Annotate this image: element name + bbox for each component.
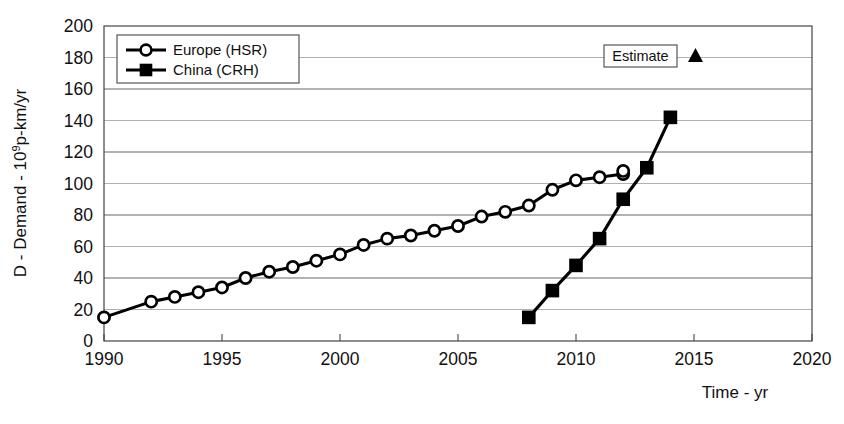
y-tick-label: 80 — [74, 205, 94, 225]
data-point-marker — [169, 291, 180, 302]
data-point-marker — [594, 233, 606, 245]
chart-container: 1990199520002005201020152020 02040608010… — [0, 0, 844, 424]
data-point-marker — [547, 184, 558, 195]
data-point-marker — [523, 311, 535, 323]
open-circle-marker-icon — [141, 45, 152, 56]
data-point-marker — [429, 225, 440, 236]
data-point-marker — [641, 162, 653, 174]
data-point-marker — [618, 165, 629, 176]
data-point-marker — [594, 172, 605, 183]
x-tick-label: 2020 — [793, 349, 832, 369]
y-tick-label: 180 — [64, 48, 93, 68]
y-tick-label: 120 — [64, 142, 93, 162]
data-point-marker — [476, 211, 487, 222]
x-tick-label: 2010 — [557, 349, 596, 369]
y-tick-label: 40 — [74, 268, 94, 288]
x-axis-title: Time - yr — [702, 383, 769, 402]
y-axis-title-prefix: D - Demand - 10 — [11, 152, 30, 278]
data-point-marker — [216, 282, 227, 293]
data-point-marker — [146, 296, 157, 307]
y-axis-title-suffix: p-km/yr — [11, 88, 30, 145]
y-tick-label: 60 — [74, 237, 94, 257]
data-point-marker — [617, 193, 629, 205]
legend: Europe (HSR) China (CRH) — [117, 35, 299, 83]
legend-label-china: China (CRH) — [173, 61, 259, 78]
y-axis-title: D - Demand - 109p-km/yr — [10, 88, 30, 277]
data-point-marker — [500, 206, 511, 217]
data-point-marker — [570, 259, 582, 271]
data-point-marker — [382, 233, 393, 244]
legend-item-europe[interactable]: Europe (HSR) — [126, 41, 267, 58]
y-tick-label: 20 — [74, 300, 94, 320]
data-point-marker — [523, 200, 534, 211]
demand-vs-time-line-chart: 1990199520002005201020152020 02040608010… — [0, 0, 844, 424]
svg-text:D - Demand - 109p-km/yr: D - Demand - 109p-km/yr — [10, 88, 30, 277]
data-point-marker — [405, 230, 416, 241]
x-tick-label: 1990 — [85, 349, 124, 369]
y-tick-label: 200 — [64, 16, 93, 36]
data-point-marker — [570, 175, 581, 186]
data-point-marker — [240, 272, 251, 283]
filled-square-marker-icon — [141, 65, 152, 76]
legend-label-europe: Europe (HSR) — [173, 41, 267, 58]
data-point-marker — [264, 266, 275, 277]
x-tick-label: 2015 — [675, 349, 714, 369]
data-point-marker — [334, 249, 345, 260]
estimate-label-text: Estimate — [612, 48, 668, 64]
y-axis-tick-labels: 020406080100120140160180200 — [64, 16, 93, 351]
data-point-marker — [664, 111, 676, 123]
y-tick-label: 140 — [64, 111, 93, 131]
x-tick-label: 2005 — [439, 349, 478, 369]
y-tick-label: 100 — [64, 174, 93, 194]
data-point-marker — [452, 220, 463, 231]
y-tick-label: 160 — [64, 79, 93, 99]
data-point-marker — [546, 285, 558, 297]
x-axis-tick-labels: 1990199520002005201020152020 — [85, 349, 832, 369]
data-point-marker — [358, 239, 369, 250]
x-tick-label: 1995 — [203, 349, 242, 369]
data-point-marker — [287, 261, 298, 272]
x-tick-label: 2000 — [321, 349, 360, 369]
y-tick-label: 0 — [83, 331, 93, 351]
data-point-marker — [193, 287, 204, 298]
data-point-marker — [98, 312, 109, 323]
data-point-marker — [311, 255, 322, 266]
